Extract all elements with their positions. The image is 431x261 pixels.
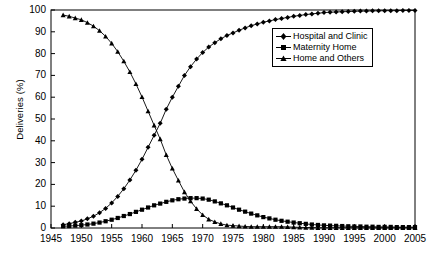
data-point xyxy=(303,12,308,17)
data-point xyxy=(158,121,163,126)
data-point xyxy=(255,213,259,217)
data-point xyxy=(176,197,180,201)
legend-label: Home and Others xyxy=(292,54,364,63)
data-point xyxy=(291,14,296,19)
data-point xyxy=(376,8,381,13)
data-point xyxy=(170,166,175,171)
data-point xyxy=(249,212,253,216)
data-point xyxy=(413,8,418,13)
data-point xyxy=(273,218,277,222)
data-point xyxy=(122,214,126,218)
data-point xyxy=(237,28,242,33)
data-point xyxy=(406,8,411,13)
data-point xyxy=(91,24,96,29)
data-point xyxy=(146,205,150,209)
data-point xyxy=(201,196,205,200)
data-point xyxy=(213,199,217,203)
data-point xyxy=(267,216,271,220)
data-point xyxy=(110,218,114,222)
data-point xyxy=(61,13,66,18)
data-point xyxy=(195,196,199,200)
data-point xyxy=(128,212,132,216)
data-point xyxy=(116,216,120,220)
data-point xyxy=(261,215,265,219)
data-point xyxy=(158,201,162,205)
data-point xyxy=(134,210,138,214)
chart-legend: Hospital and Clinic Maternity Home Home … xyxy=(272,28,373,67)
data-point xyxy=(237,208,241,212)
data-point xyxy=(158,137,163,142)
data-point xyxy=(182,196,186,200)
data-point xyxy=(85,216,90,221)
data-point xyxy=(91,222,95,226)
data-point xyxy=(218,36,223,41)
data-point xyxy=(164,152,169,157)
data-point xyxy=(261,20,266,25)
data-point xyxy=(79,219,84,224)
series-line xyxy=(63,198,415,227)
data-point xyxy=(394,8,399,13)
data-point xyxy=(176,178,181,183)
data-point xyxy=(67,224,71,228)
data-point xyxy=(133,81,138,86)
data-point xyxy=(279,16,284,21)
data-point xyxy=(364,9,369,14)
data-point xyxy=(61,224,65,228)
data-point xyxy=(249,23,254,28)
data-point xyxy=(382,8,387,13)
data-point xyxy=(243,25,248,30)
data-point xyxy=(152,133,157,138)
data-point xyxy=(285,15,290,20)
data-point xyxy=(231,205,235,209)
data-point xyxy=(212,219,217,224)
data-point xyxy=(309,11,314,16)
data-point xyxy=(97,220,101,224)
data-point xyxy=(182,190,187,195)
data-point xyxy=(140,94,145,99)
data-point xyxy=(152,203,156,207)
data-point xyxy=(121,59,126,64)
data-point xyxy=(207,198,211,202)
data-point xyxy=(73,224,77,228)
legend-label: Maternity Home xyxy=(292,43,357,52)
data-point xyxy=(279,219,283,223)
data-point xyxy=(133,168,138,173)
data-point xyxy=(85,222,89,226)
data-point xyxy=(297,13,302,18)
data-point xyxy=(286,220,290,224)
data-point xyxy=(219,201,223,205)
data-point xyxy=(146,145,151,150)
data-point xyxy=(79,223,83,227)
data-point xyxy=(400,8,405,13)
data-point xyxy=(370,8,375,13)
data-point xyxy=(388,8,393,13)
data-point xyxy=(152,123,157,128)
data-point xyxy=(146,109,151,114)
data-point xyxy=(322,10,327,15)
data-point xyxy=(176,84,181,89)
legend-item-home-and-others: Home and Others xyxy=(275,53,368,64)
data-point xyxy=(225,203,229,207)
data-point xyxy=(85,20,90,25)
data-point xyxy=(164,200,168,204)
legend-item-maternity-home: Maternity Home xyxy=(275,42,368,53)
data-point xyxy=(91,214,96,219)
data-point xyxy=(358,9,363,14)
data-point xyxy=(104,219,108,223)
data-point xyxy=(224,33,229,38)
legend-item-hospital-and-clinic: Hospital and Clinic xyxy=(275,31,368,42)
data-point xyxy=(170,95,175,100)
diamond-marker-icon xyxy=(275,31,292,42)
data-point xyxy=(298,221,302,225)
square-marker-icon xyxy=(275,42,292,53)
data-point xyxy=(170,198,174,202)
data-point xyxy=(127,69,132,74)
legend-label: Hospital and Clinic xyxy=(292,32,368,41)
data-point xyxy=(292,220,296,224)
data-point xyxy=(140,208,144,212)
data-point xyxy=(267,18,272,23)
data-point xyxy=(273,17,278,22)
data-point xyxy=(243,210,247,214)
data-point xyxy=(164,107,169,112)
